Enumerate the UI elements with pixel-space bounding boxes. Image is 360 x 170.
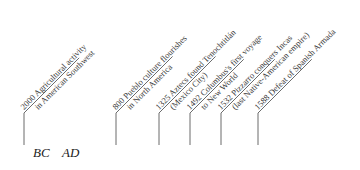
bc-label: BC (33, 145, 50, 160)
event-label-line1: 2000 Agricultural activity (18, 41, 88, 111)
timeline-event: 2000 Agricultural activityin American So… (18, 40, 96, 145)
timeline-event: 1325 Aztecs found Tenochtitlán(Mexico Ci… (153, 27, 245, 145)
ad-label: AD (61, 145, 80, 160)
timeline-diagram: 2000 Agricultural activityin American So… (0, 0, 360, 170)
